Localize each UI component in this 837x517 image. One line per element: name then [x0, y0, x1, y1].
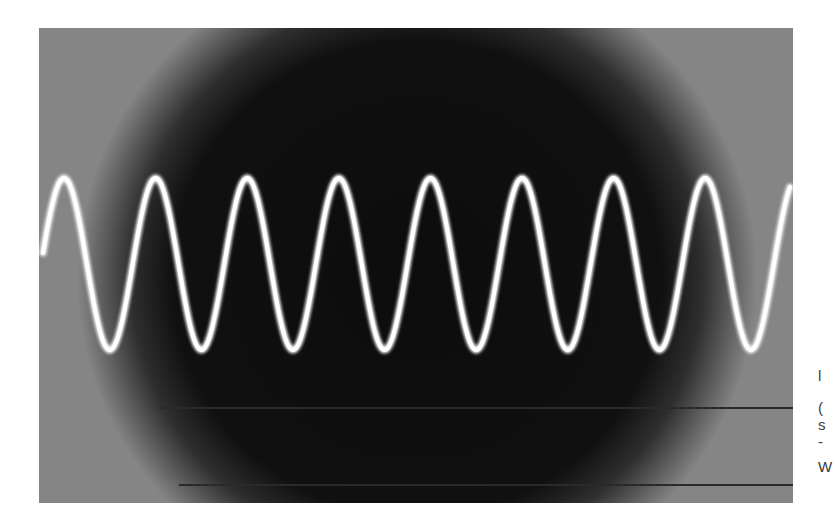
caption-fragment: s — [818, 416, 826, 433]
caption-fragment: ( — [818, 399, 823, 416]
caption-fragment: - — [818, 433, 823, 450]
oscilloscope-photo — [39, 28, 793, 503]
caption-fragment: W — [818, 458, 832, 475]
caption-fragment: l — [818, 367, 821, 384]
clipped-caption: l ( s - W — [818, 360, 837, 490]
sine-trace — [39, 28, 793, 503]
